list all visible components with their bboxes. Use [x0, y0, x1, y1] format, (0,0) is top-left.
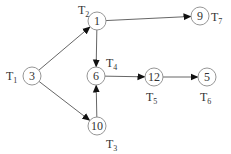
node-1: 1T2	[78, 3, 106, 30]
edge-1-to-6	[96, 30, 97, 67]
node-9: 9T7	[191, 7, 222, 26]
edge-3-to-1	[39, 27, 90, 70]
node-5: 5T6	[198, 68, 216, 106]
task-label: T7	[211, 10, 222, 26]
node-6: 6T4	[87, 56, 117, 85]
node-value: 6	[93, 69, 99, 83]
task-label: T2	[78, 3, 89, 19]
node-value: 9	[197, 9, 203, 23]
node-12: 12T5	[145, 68, 163, 106]
edge-10-to-6	[96, 85, 97, 117]
nodes: 3T11T26T410T39T712T55T6	[6, 3, 222, 153]
task-label: T1	[6, 69, 17, 85]
task-label: T6	[200, 90, 211, 106]
node-value: 12	[148, 70, 160, 84]
edge-3-to-10	[39, 81, 89, 120]
node-value: 10	[91, 119, 103, 133]
edges	[39, 16, 198, 120]
edge-1-to-9	[106, 16, 191, 20]
node-value: 5	[204, 70, 210, 84]
task-graph: 3T11T26T410T39T712T55T6	[0, 0, 231, 154]
node-value: 3	[29, 69, 35, 83]
task-label: T3	[106, 137, 117, 153]
task-label: T4	[106, 56, 117, 72]
node-3: 3T1	[6, 67, 41, 85]
edge-6-to-12	[105, 76, 145, 77]
task-label: T5	[146, 90, 157, 106]
node-value: 1	[94, 14, 100, 28]
node-10: 10T3	[88, 117, 117, 153]
